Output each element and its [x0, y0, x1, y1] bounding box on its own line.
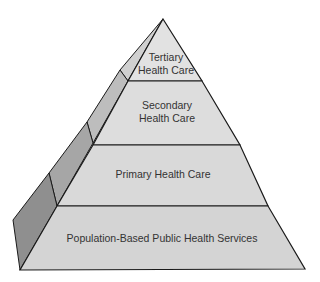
tier-2-label-line-1: Secondary — [142, 99, 193, 111]
tier-2-label-line-2: Health Care — [139, 112, 195, 124]
tier-4-label: Population-Based Public Health Services — [67, 232, 258, 244]
tier-3-label: Primary Health Care — [115, 168, 210, 180]
tier-1-label-line-2: Health Care — [138, 64, 194, 76]
health-care-pyramid: Tertiary Health Care Secondary Health Ca… — [0, 0, 320, 282]
tier-1-label-line-1: Tertiary — [149, 51, 184, 63]
